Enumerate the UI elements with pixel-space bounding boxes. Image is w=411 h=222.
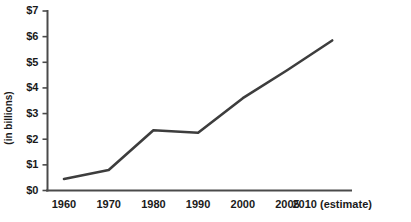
- y-axis-title: (in billions): [3, 91, 14, 144]
- x-tick-label: 1990: [186, 198, 210, 210]
- series-group: [64, 40, 332, 178]
- x-axis-tick-labels: 1960197019801990200020052010 (estimate): [52, 198, 373, 210]
- x-tick-label: 2000: [231, 198, 255, 210]
- line-chart: $0$1$2$3$4$5$6$7 (in billions) 196019701…: [0, 0, 411, 222]
- y-axis-group: $0$1$2$3$4$5$6$7 (in billions): [3, 4, 48, 196]
- y-axis-tick-labels: $0$1$2$3$4$5$6$7: [26, 4, 39, 196]
- chart-container: $0$1$2$3$4$5$6$7 (in billions) 196019701…: [0, 0, 411, 222]
- x-axis-group: 1960197019801990200020052010 (estimate): [47, 191, 372, 211]
- y-tick-label: $3: [26, 107, 38, 119]
- y-tick-label: $5: [26, 56, 38, 68]
- y-tick-label: $0: [26, 184, 38, 196]
- data-line-series-value: [64, 40, 332, 178]
- y-tick-label: $6: [26, 30, 38, 42]
- x-tick-label: 2010 (estimate): [292, 198, 372, 210]
- x-tick-label: 1960: [52, 198, 76, 210]
- x-tick-label: 1970: [96, 198, 120, 210]
- x-tick-label: 1980: [141, 198, 165, 210]
- y-tick-label: $2: [26, 133, 38, 145]
- y-tick-label: $4: [26, 81, 39, 93]
- y-tick-label: $1: [26, 158, 38, 170]
- y-tick-label: $7: [26, 4, 38, 16]
